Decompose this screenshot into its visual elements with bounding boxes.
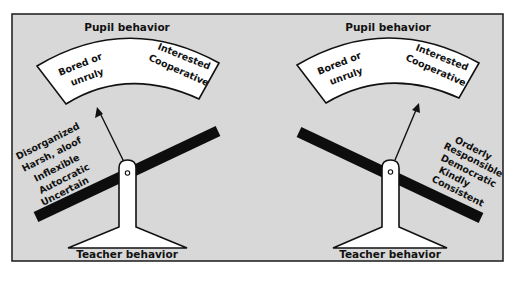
- left-pupil-behavior-title: Pupil behavior: [84, 21, 170, 33]
- right-pupil-behavior-title: Pupil behavior: [345, 21, 431, 33]
- left-pivot-icon: [125, 171, 129, 175]
- right-pivot-icon: [388, 170, 392, 174]
- right-teacher-behavior-label: Teacher behavior: [339, 248, 441, 260]
- left-teacher-behavior-label: Teacher behavior: [76, 248, 178, 260]
- teacher-pupil-behavior-diagram: Pupil behavior Bored or unruly Intereste…: [0, 0, 506, 281]
